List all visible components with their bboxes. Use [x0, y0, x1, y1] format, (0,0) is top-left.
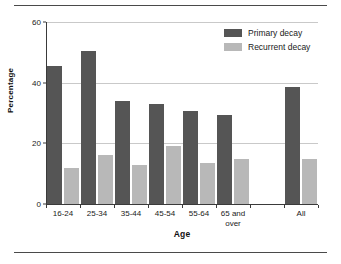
legend-item: Primary decay: [224, 28, 310, 38]
legend-item: Recurrent decay: [224, 42, 310, 52]
bar-recurrent-decay: [200, 163, 215, 204]
bar-group: [114, 22, 148, 204]
chart-legend: Primary decayRecurrent decay: [224, 28, 310, 56]
bar-group: [46, 22, 80, 204]
x-tick-label: 45-54: [148, 205, 182, 229]
legend-label: Recurrent decay: [248, 42, 310, 52]
x-tick-label: 16-24: [46, 205, 80, 229]
bar-recurrent-decay: [132, 165, 147, 204]
x-tick-mark: [46, 205, 47, 208]
x-tick-label: 55-64: [182, 205, 216, 229]
y-axis-title: Percentage: [6, 68, 15, 113]
bar-primary-decay: [183, 111, 198, 204]
x-tick-mark: [114, 205, 115, 208]
y-tick-label: 20: [32, 139, 41, 148]
bar-primary-decay: [115, 101, 130, 204]
x-tick-mark: [318, 205, 319, 208]
x-tick-mark: [80, 205, 81, 208]
x-tick-mark: [250, 205, 251, 208]
chart-figure: 0204060 Percentage 16-2425-3435-4445-545…: [0, 0, 341, 264]
x-axis-title: Age: [46, 229, 318, 239]
x-tick-mark: [284, 205, 285, 208]
bar-primary-decay: [217, 115, 232, 204]
bottom-rule: [14, 252, 327, 253]
bar-recurrent-decay: [166, 146, 181, 204]
bar-recurrent-decay: [234, 159, 249, 205]
bar-group: [148, 22, 182, 204]
x-tick-mark: [216, 205, 217, 208]
bar-recurrent-decay: [64, 168, 79, 204]
legend-label: Primary decay: [248, 28, 302, 38]
y-tick-label: 60: [32, 18, 41, 27]
x-tick-label: 65 andover: [216, 205, 250, 229]
x-tick-mark: [182, 205, 183, 208]
bar-recurrent-decay: [98, 155, 113, 204]
bar-primary-decay: [81, 51, 96, 204]
y-tick-label: 0: [37, 200, 41, 209]
x-tick-label: All: [284, 205, 318, 229]
x-tick-label: 35-44: [114, 205, 148, 229]
x-tick-labels: 16-2425-3435-4445-5455-6465 andoverAll: [46, 205, 318, 229]
x-tick-label: [250, 205, 284, 229]
x-tick-label: 25-34: [80, 205, 114, 229]
top-rule: [14, 5, 327, 6]
bar-primary-decay: [47, 66, 62, 204]
legend-swatch: [224, 29, 242, 37]
legend-swatch: [224, 43, 242, 51]
bar-primary-decay: [285, 87, 300, 204]
bar-group: [182, 22, 216, 204]
bar-group: [80, 22, 114, 204]
bar-recurrent-decay: [302, 159, 317, 205]
y-tick-label: 40: [32, 78, 41, 87]
bar-primary-decay: [149, 104, 164, 204]
x-tick-mark: [148, 205, 149, 208]
